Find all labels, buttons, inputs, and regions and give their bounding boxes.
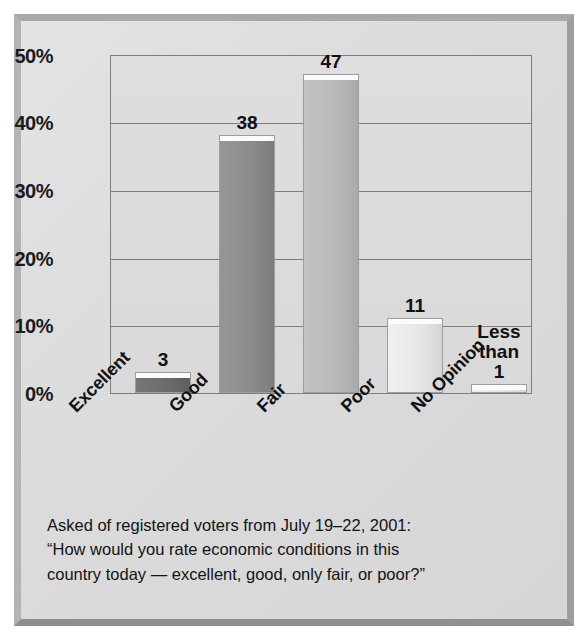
chart-caption: Asked of registered voters from July 19–… [47,513,547,586]
bar-value-no-opinion-line1: Less [477,321,520,342]
bar-fair[interactable]: 47 [303,74,359,393]
bar-body-fair [303,80,359,393]
y-axis-tick-40: 40% [0,112,53,135]
y-axis-tick-50: 50% [0,45,53,68]
chart-figure-frame: 50% 40% 30% 20% 10% 0% 3 38 [14,14,574,626]
caption-line-2: “How would you rate economic conditions … [47,537,547,561]
y-axis-tick-30: 30% [0,180,53,203]
bar-value-poor: 11 [365,296,465,316]
y-axis-tick-0: 0% [0,383,53,406]
y-axis-tick-10: 10% [0,315,53,338]
bar-value-fair: 47 [281,52,381,72]
bar-body-good [219,141,275,393]
caption-line-1: Asked of registered voters from July 19–… [47,513,547,537]
bar-value-no-opinion-line3: 1 [494,361,505,382]
bar-no-opinion[interactable]: Less than 1 [471,384,527,393]
bar-good[interactable]: 38 [219,135,275,393]
bar-value-good: 38 [197,113,297,133]
caption-line-3: country today — excellent, good, only fa… [47,562,547,586]
bar-body-no-opinion [471,390,527,393]
chart-panel: 50% 40% 30% 20% 10% 0% 3 38 [21,21,567,619]
y-axis-tick-20: 20% [0,248,53,271]
